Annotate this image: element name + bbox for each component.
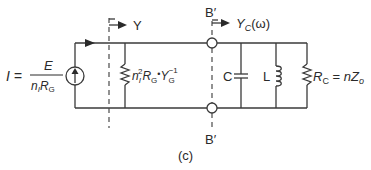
- source-label-lhs: I =: [6, 68, 22, 84]
- admittance-arrow-icon: [221, 19, 230, 27]
- load-resistor-zigzag-icon: [303, 64, 311, 85]
- current-direction-arrow-icon: [85, 39, 95, 47]
- current-source: [66, 67, 84, 85]
- denominator-r: R: [40, 79, 49, 93]
- shunt-resistor-zigzag-icon: [121, 64, 129, 85]
- shunt-resistor: nI2RG•YG−1: [121, 43, 178, 108]
- reference-plane-y-label: Y: [133, 18, 142, 33]
- capacitor: C: [223, 43, 248, 108]
- shunt-y-sup: −1: [169, 66, 179, 75]
- source-label-numerator: E: [44, 58, 53, 73]
- denominator-r-sub: G: [49, 85, 55, 94]
- load-n: n: [344, 69, 351, 84]
- source-label-denominator: nIRG: [31, 79, 55, 94]
- inductor: L: [263, 43, 281, 108]
- shunt-y-sub: G: [168, 76, 174, 85]
- top-terminal-node: [207, 38, 217, 48]
- current-source-arrow-up-icon: [72, 68, 79, 74]
- shunt-resistor-label: nI2RG•YG−1: [132, 66, 178, 85]
- admittance-arg: (ω): [251, 16, 270, 31]
- capacitor-label: C: [223, 69, 232, 84]
- load-resistor: RC = nZo: [303, 43, 364, 108]
- main-wires: [75, 43, 307, 108]
- admittance-label: YC(ω): [236, 16, 270, 33]
- circuit-diagram: I = E nIRG Y nI2RG•YG−1 B′ B′ Y: [0, 0, 371, 170]
- shunt-r: R: [142, 69, 151, 83]
- load-r: R: [313, 69, 322, 84]
- b-prime-top-label: B′: [205, 5, 217, 20]
- inductor-label: L: [263, 69, 270, 84]
- bottom-terminal-node: [207, 103, 217, 113]
- load-z-sub: o: [359, 76, 364, 86]
- reference-plane-b-prime: B′ B′ YC(ω): [205, 5, 270, 147]
- load-resistor-label: RC = nZo: [313, 69, 364, 86]
- source-label: I = E nIRG: [6, 58, 63, 94]
- figure-caption: (c): [178, 148, 193, 163]
- b-prime-bottom-label: B′: [205, 132, 217, 147]
- load-eq: =: [329, 69, 344, 84]
- inductor-coil-icon: [276, 66, 281, 86]
- shunt-n-sub: I: [139, 76, 142, 85]
- reference-plane-y-arrow-icon: [118, 21, 127, 29]
